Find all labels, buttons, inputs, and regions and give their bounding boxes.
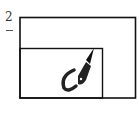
outer-frame (20, 18, 136, 99)
pen-nib-icon (78, 48, 94, 85)
hook-stroke (63, 70, 76, 90)
diagram-canvas (0, 0, 138, 113)
